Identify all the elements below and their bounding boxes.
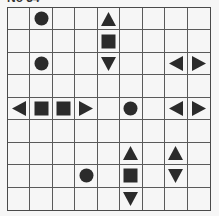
ship-end-up-icon [101, 12, 116, 26]
ship-end-right-icon [192, 56, 206, 71]
grid-cell-r8-c3[interactable] [75, 188, 97, 210]
ship-circle-icon [34, 56, 49, 71]
grid-cell-r3-c2[interactable] [53, 75, 75, 97]
grid-cell-r0-c0[interactable] [8, 8, 30, 30]
grid-cell-r0-c4[interactable] [98, 8, 120, 30]
grid-cell-r8-c0[interactable] [8, 188, 30, 210]
grid-cell-r0-c8[interactable] [188, 8, 210, 30]
grid-cell-r3-c0[interactable] [8, 75, 30, 97]
grid-cell-r1-c3[interactable] [75, 30, 97, 52]
ship-end-down-icon [123, 192, 138, 206]
grid-cell-r2-c2[interactable] [53, 53, 75, 75]
grid-cell-r0-c6[interactable] [143, 8, 165, 30]
grid-cell-r8-c2[interactable] [53, 188, 75, 210]
grid-cell-r1-c1[interactable] [30, 30, 52, 52]
grid-cell-r2-c0[interactable] [8, 53, 30, 75]
grid-cell-r1-c6[interactable] [143, 30, 165, 52]
ship-end-left-icon [12, 101, 26, 116]
grid-cell-r7-c3[interactable] [75, 165, 97, 187]
puzzle-title: No 34 [7, 0, 40, 4]
grid-cell-r5-c8[interactable] [188, 120, 210, 142]
ship-end-right-icon [79, 101, 93, 116]
grid-cell-r1-c0[interactable] [8, 30, 30, 52]
grid-cell-r1-c7[interactable] [165, 30, 187, 52]
grid-cell-r6-c3[interactable] [75, 143, 97, 165]
grid-cell-r2-c1[interactable] [30, 53, 52, 75]
ship-end-left-icon [169, 56, 183, 71]
grid-cell-r3-c8[interactable] [188, 75, 210, 97]
grid-cell-r1-c8[interactable] [188, 30, 210, 52]
grid-cell-r0-c7[interactable] [165, 8, 187, 30]
grid-cell-r3-c6[interactable] [143, 75, 165, 97]
grid-cell-r7-c2[interactable] [53, 165, 75, 187]
grid-cell-r2-c4[interactable] [98, 53, 120, 75]
grid-cell-r7-c7[interactable] [165, 165, 187, 187]
grid-cell-r4-c8[interactable] [188, 98, 210, 120]
grid-cell-r6-c4[interactable] [98, 143, 120, 165]
grid-cell-r8-c6[interactable] [143, 188, 165, 210]
grid-cell-r1-c5[interactable] [120, 30, 142, 52]
grid-cell-r8-c1[interactable] [30, 188, 52, 210]
grid-cell-r2-c8[interactable] [188, 53, 210, 75]
grid-cell-r5-c6[interactable] [143, 120, 165, 142]
grid-cell-r8-c5[interactable] [120, 188, 142, 210]
grid-cell-r1-c2[interactable] [53, 30, 75, 52]
grid-cell-r3-c1[interactable] [30, 75, 52, 97]
grid-cell-r8-c4[interactable] [98, 188, 120, 210]
grid-cell-r4-c0[interactable] [8, 98, 30, 120]
grid-cell-r0-c1[interactable] [30, 8, 52, 30]
ship-circle-icon [79, 168, 94, 183]
ship-square-icon [123, 168, 138, 183]
grid-cell-r2-c5[interactable] [120, 53, 142, 75]
grid-cell-r4-c1[interactable] [30, 98, 52, 120]
grid-cell-r6-c6[interactable] [143, 143, 165, 165]
ship-end-down-icon [101, 57, 116, 71]
ship-end-right-icon [192, 101, 206, 116]
ship-circle-icon [123, 101, 138, 116]
grid-cell-r5-c3[interactable] [75, 120, 97, 142]
grid-cell-r4-c5[interactable] [120, 98, 142, 120]
grid-cell-r6-c2[interactable] [53, 143, 75, 165]
grid-cell-r2-c7[interactable] [165, 53, 187, 75]
grid-cell-r3-c5[interactable] [120, 75, 142, 97]
grid-cell-r5-c5[interactable] [120, 120, 142, 142]
ship-end-up-icon [123, 146, 138, 160]
ship-end-down-icon [168, 169, 183, 183]
grid-cell-r6-c7[interactable] [165, 143, 187, 165]
grid-cell-r7-c6[interactable] [143, 165, 165, 187]
grid-cell-r0-c3[interactable] [75, 8, 97, 30]
grid-cell-r7-c5[interactable] [120, 165, 142, 187]
grid-cell-r5-c2[interactable] [53, 120, 75, 142]
grid-cell-r6-c0[interactable] [8, 143, 30, 165]
grid-cell-r6-c5[interactable] [120, 143, 142, 165]
grid-cell-r1-c4[interactable] [98, 30, 120, 52]
grid-cell-r6-c8[interactable] [188, 143, 210, 165]
grid-cell-r7-c4[interactable] [98, 165, 120, 187]
grid-cell-r7-c1[interactable] [30, 165, 52, 187]
grid-cell-r5-c0[interactable] [8, 120, 30, 142]
grid-cell-r7-c8[interactable] [188, 165, 210, 187]
ship-end-left-icon [169, 101, 183, 116]
grid-cell-r0-c5[interactable] [120, 8, 142, 30]
grid-cell-r0-c2[interactable] [53, 8, 75, 30]
grid-cell-r2-c3[interactable] [75, 53, 97, 75]
grid-cell-r2-c6[interactable] [143, 53, 165, 75]
grid-cell-r4-c2[interactable] [53, 98, 75, 120]
grid-cell-r4-c3[interactable] [75, 98, 97, 120]
grid-cell-r7-c0[interactable] [8, 165, 30, 187]
grid-cell-r8-c7[interactable] [165, 188, 187, 210]
ship-square-icon [56, 101, 71, 116]
grid-cell-r5-c7[interactable] [165, 120, 187, 142]
ship-circle-icon [34, 11, 49, 26]
ship-square-icon [34, 101, 49, 116]
grid-cell-r3-c3[interactable] [75, 75, 97, 97]
grid-cell-r5-c4[interactable] [98, 120, 120, 142]
grid-cell-r4-c7[interactable] [165, 98, 187, 120]
grid-cell-r5-c1[interactable] [30, 120, 52, 142]
grid-cell-r8-c8[interactable] [188, 188, 210, 210]
grid-cell-r3-c7[interactable] [165, 75, 187, 97]
grid-cell-r4-c4[interactable] [98, 98, 120, 120]
grid-cell-r4-c6[interactable] [143, 98, 165, 120]
grid-cell-r3-c4[interactable] [98, 75, 120, 97]
grid-cell-r6-c1[interactable] [30, 143, 52, 165]
